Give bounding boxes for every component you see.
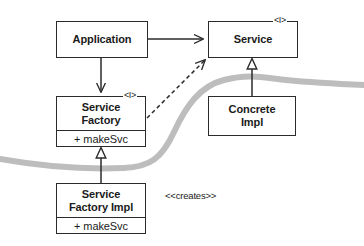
connector-concrete-impl-realizes-service[interactable] — [247, 59, 257, 97]
relationship-connectors-layer: Concrete Impl (<>) --> — [0, 0, 364, 246]
edge-label-creates: <<creates>> — [163, 190, 218, 201]
connector-service-factory-dependency-service[interactable] — [147, 60, 205, 118]
uml-class-diagram: Application <I> Service <I> Service Fact… — [0, 0, 364, 246]
connector-impl-realizes-service-factory[interactable] — [96, 148, 106, 184]
hollow-triangle-icon — [96, 148, 106, 159]
hollow-triangle-icon — [247, 59, 257, 70]
